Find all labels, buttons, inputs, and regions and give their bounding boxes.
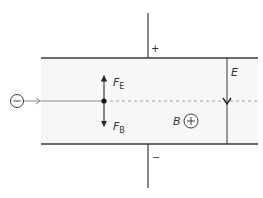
top-polarity-label: + xyxy=(151,43,159,54)
beam-arrow-icon xyxy=(24,98,40,104)
magnetic-field-label: B xyxy=(173,115,181,128)
electron-icon xyxy=(11,95,24,108)
velocity-selector-diagram: + − FE FB E B xyxy=(0,0,263,198)
magnetic-field-into-page-icon xyxy=(184,114,198,128)
particle-dot xyxy=(101,98,106,103)
bottom-polarity-label: − xyxy=(152,152,160,163)
electric-field-label: E xyxy=(231,66,238,79)
